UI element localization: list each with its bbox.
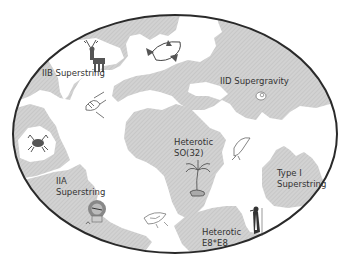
label-so32-line1: Heterotic bbox=[174, 137, 213, 147]
label-iib: IIB Superstring bbox=[42, 68, 105, 78]
label-iid: IID Supergravity bbox=[220, 76, 289, 86]
label-e8e8-line1: Heterotic bbox=[202, 227, 241, 237]
label-type1-line2: Superstring bbox=[277, 179, 326, 189]
label-iia-line2: Superstring bbox=[56, 187, 105, 197]
string-theory-world-map bbox=[0, 0, 348, 263]
snail-shell-icon bbox=[256, 92, 266, 100]
label-iia-line1: IIA bbox=[56, 176, 67, 186]
label-type1-line1: Type I bbox=[277, 168, 302, 178]
label-so32-line2: SO(32) bbox=[174, 148, 204, 158]
label-e8e8-line2: E8*E8 bbox=[202, 238, 228, 248]
